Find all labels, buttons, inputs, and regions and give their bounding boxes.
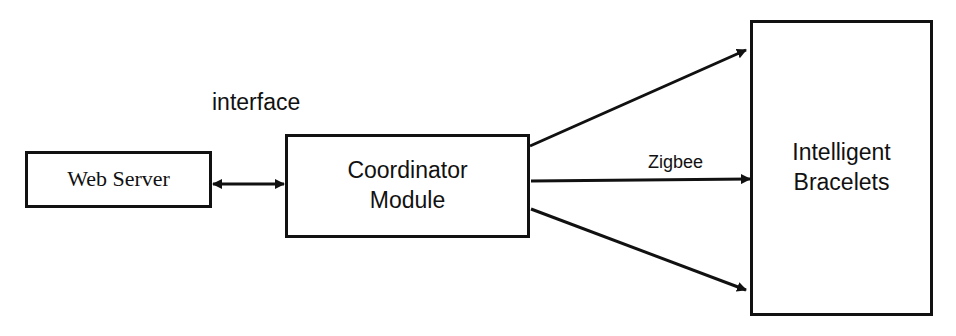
coordinator-module-node: Coordinator Module	[285, 134, 530, 238]
intelligent-bracelets-node: Intelligent Bracelets	[750, 20, 933, 316]
coordinator-label-line1: Coordinator	[347, 156, 467, 186]
zigbee-arrow-bottom	[531, 209, 746, 290]
web-server-node: Web Server	[25, 151, 212, 208]
zigbee-edge-label: Zigbee	[648, 152, 703, 173]
bracelets-label-line1: Intelligent	[792, 138, 890, 168]
interface-edge-label: interface	[212, 89, 300, 116]
coordinator-label-line2: Module	[370, 186, 445, 216]
bracelets-label-line2: Bracelets	[794, 168, 890, 198]
system-architecture-diagram: Web Server Coordinator Module Intelligen…	[0, 0, 956, 336]
zigbee-arrow-middle	[531, 179, 750, 181]
zigbee-arrow-top	[530, 50, 746, 146]
web-server-label: Web Server	[67, 165, 170, 194]
